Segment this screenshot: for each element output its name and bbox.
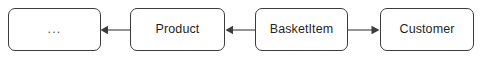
connector-product-to-more (101, 26, 131, 34)
connector-basketitem-to-product (226, 26, 256, 34)
entity-node-customer[interactable]: Customer (380, 8, 474, 51)
entity-label-product: Product (156, 23, 200, 36)
arrowhead-right-icon (372, 26, 380, 34)
arrowhead-left-icon (226, 26, 234, 34)
entity-label-basketitem: BasketItem (270, 23, 334, 36)
entity-node-more[interactable]: ... (8, 8, 101, 51)
entity-label-more: ... (47, 23, 61, 36)
entity-label-customer: Customer (400, 23, 455, 36)
arrowhead-left-icon (101, 26, 109, 34)
connector-basketitem-to-customer (348, 26, 380, 34)
entity-node-product[interactable]: Product (130, 8, 225, 51)
entity-relationship-diagram: ... Product BasketItem Customer (0, 0, 481, 63)
entity-node-basketitem[interactable]: BasketItem (255, 8, 348, 51)
